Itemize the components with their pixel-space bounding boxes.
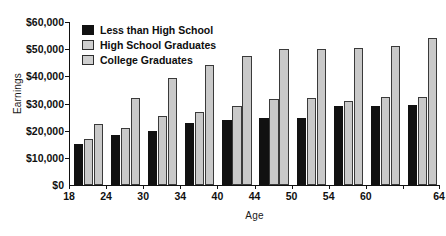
x-axis-tick-mark [255, 185, 256, 189]
x-axis-title: Age [69, 210, 440, 221]
bar [242, 56, 251, 185]
x-axis-tick-mark [180, 185, 181, 189]
plot-area: Less than High SchoolHigh School Graduat… [69, 22, 440, 185]
legend-item: High School Graduates [82, 38, 216, 51]
bar [269, 99, 278, 185]
bar-group [297, 22, 326, 185]
x-axis-tick-mark [292, 185, 293, 189]
bar-group [371, 22, 400, 185]
y-axis-tick-label: $40,000 [12, 70, 64, 82]
bar [371, 106, 380, 185]
bar-group [334, 22, 363, 185]
y-axis-tick-label: $50,000 [12, 43, 64, 55]
bar [408, 105, 417, 185]
bar [232, 106, 241, 185]
y-axis-tick-label: $60,000 [12, 16, 64, 28]
x-axis-tick-label: 30 [123, 190, 163, 202]
bar [222, 120, 231, 185]
y-axis-tick-label: $10,000 [12, 152, 64, 164]
x-axis-tick-mark [403, 185, 404, 189]
legend-item: Less than High School [82, 23, 216, 36]
legend-swatch-icon [82, 55, 94, 65]
bar [168, 78, 177, 185]
bar-group [222, 22, 251, 185]
x-axis-tick-label: 44 [235, 190, 275, 202]
x-axis-tick-mark [439, 185, 440, 189]
x-axis-tick-mark [329, 185, 330, 189]
bar [185, 123, 194, 185]
x-axis-tick-mark [366, 185, 367, 189]
x-axis-tick-label: 40 [197, 190, 237, 202]
chart-legend: Less than High SchoolHigh School Graduat… [82, 23, 216, 66]
bar [381, 97, 390, 185]
bar-group [259, 22, 288, 185]
bar [344, 101, 353, 185]
bar [428, 38, 437, 185]
bar [131, 98, 140, 185]
bar [205, 65, 214, 185]
x-axis-tick-label: 18 [49, 190, 89, 202]
bar-chart: Earnings $0$10,000$20,000$30,000$40,000$… [0, 0, 446, 236]
x-axis-tick-mark [69, 185, 70, 189]
legend-item-label: College Graduates [100, 54, 193, 66]
x-axis-tick-labels: 18243034404450546064 [69, 190, 440, 206]
bar [297, 118, 306, 185]
bar [354, 48, 363, 185]
bar [259, 118, 268, 185]
bar [111, 135, 120, 185]
x-axis-tick-label: 54 [309, 190, 349, 202]
legend-item-label: Less than High School [100, 24, 213, 36]
bar [121, 128, 130, 185]
legend-item-label: High School Graduates [100, 39, 216, 51]
bar [334, 106, 343, 185]
bar [418, 97, 427, 185]
bar [158, 116, 167, 185]
bar [84, 139, 93, 185]
legend-item: College Graduates [82, 53, 216, 66]
bar [317, 49, 326, 185]
x-axis-tick-mark [143, 185, 144, 189]
bar [307, 98, 316, 185]
bar [74, 144, 83, 185]
x-axis-tick-mark [217, 185, 218, 189]
y-axis-tick-label: $20,000 [12, 125, 64, 137]
x-axis-tick-label: 24 [86, 190, 126, 202]
bar [279, 49, 288, 185]
x-axis-tick-mark [106, 185, 107, 189]
bar [148, 131, 157, 185]
bar-group [408, 22, 437, 185]
bar [391, 46, 400, 185]
x-axis-tick-label: 50 [272, 190, 312, 202]
x-axis-tick-label: 34 [160, 190, 200, 202]
y-axis-tick-label: $30,000 [12, 98, 64, 110]
legend-swatch-icon [82, 25, 94, 35]
bar [94, 124, 103, 185]
bar [195, 112, 204, 185]
x-axis-tick-label: 60 [346, 190, 386, 202]
x-axis-tick-label: 64 [419, 190, 446, 202]
legend-swatch-icon [82, 40, 94, 50]
